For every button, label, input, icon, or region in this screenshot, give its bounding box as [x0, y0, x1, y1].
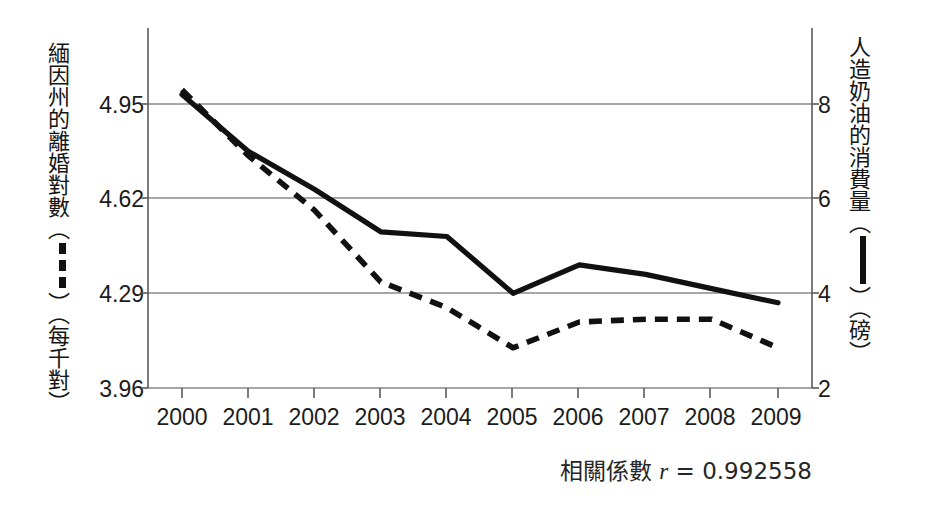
axis-spines — [148, 28, 812, 388]
series-line-divorce — [182, 90, 778, 348]
correlation-caption: 相關係數 r = 0.992558 — [560, 452, 812, 486]
caption-value: 0.992558 — [702, 458, 812, 484]
plot-area — [0, 0, 925, 517]
gridlines — [148, 104, 812, 388]
correlation-chart-figure: 緬因州的離婚對數（）（每千對） 人造奶油的消費量（）（磅） 4.95 4.62 … — [0, 0, 925, 517]
caption-variable: r — [659, 459, 668, 484]
caption-label: 相關係數 — [560, 458, 652, 484]
caption-equals: = — [676, 458, 695, 484]
